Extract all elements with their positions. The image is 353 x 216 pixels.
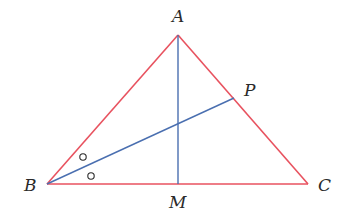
- side-ab: [47, 35, 178, 184]
- triangle-diagram: A B C M P: [0, 0, 353, 216]
- label-m: M: [168, 192, 187, 212]
- side-ac: [178, 35, 308, 184]
- angle-mark-upper: [80, 154, 86, 160]
- label-p: P: [243, 80, 256, 100]
- segment-bp: [47, 98, 234, 184]
- label-a: A: [170, 6, 184, 26]
- angle-mark-lower: [88, 173, 94, 179]
- label-b: B: [23, 175, 37, 195]
- label-c: C: [318, 175, 331, 195]
